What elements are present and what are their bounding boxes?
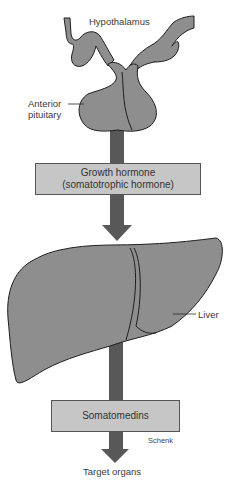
growth-hormone-alt-label: (somatotrophic hormone) bbox=[36, 179, 200, 191]
arrow-shaft-somatomedins-to-targets bbox=[109, 431, 123, 450]
label-liver: Liver bbox=[198, 309, 219, 320]
label-anterior-pituitary-line1: Anterior bbox=[28, 98, 61, 109]
arrow-shaft-liver-to-somatomedins bbox=[109, 340, 123, 402]
label-hypothalamus: Hypothalamus bbox=[89, 16, 150, 27]
label-anterior-pituitary-line2: pituitary bbox=[28, 109, 61, 120]
arrow-head-to-liver-icon bbox=[102, 225, 132, 241]
somatomedins-box: Somatomedins bbox=[51, 400, 180, 432]
growth-hormone-label: Growth hormone bbox=[36, 167, 200, 179]
arrow-shaft-gh-to-liver bbox=[110, 194, 124, 226]
credit-schenk: Schenk bbox=[148, 435, 173, 446]
arrow-head-to-targets-icon bbox=[101, 449, 129, 463]
somatomedins-label: Somatomedins bbox=[52, 410, 179, 422]
arrow-shaft-pituitary-to-gh bbox=[110, 128, 124, 164]
pituitary-shape bbox=[79, 62, 156, 131]
growth-hormone-box: Growth hormone (somatotrophic hormone) bbox=[35, 163, 201, 195]
label-target-organs: Target organs bbox=[83, 466, 141, 477]
